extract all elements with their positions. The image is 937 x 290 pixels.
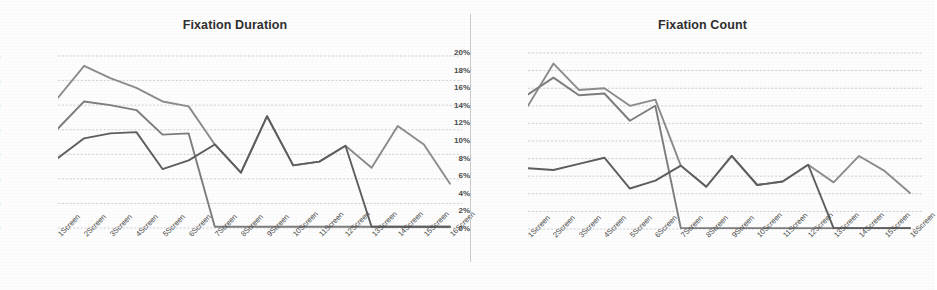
chart-panel-fixation-count: Fixation Count 0%2%4%6%8%10%12%14%16%18%…: [470, 0, 935, 290]
data-series-line: [58, 66, 450, 184]
chart-panel-fixation-duration: Fixation Duration 0%2%4%6%8%10%12%14% 1S…: [0, 0, 470, 290]
x-axis-labels-fixation-count: 1Screen2Screen3Screen4Screen5Screen6Scre…: [528, 233, 930, 290]
y-tick-label: 18%: [416, 65, 470, 74]
data-series-line: [58, 101, 450, 226]
y-tick-label: 16%: [416, 83, 470, 92]
y-tick-label: 12%: [416, 118, 470, 127]
y-tick-label: 20%: [416, 48, 470, 57]
plot-area-fixation-count: [528, 52, 924, 230]
y-tick-label: 10%: [416, 136, 470, 145]
chart-title-fixation-count: Fixation Count: [470, 18, 935, 32]
x-axis-labels-fixation-duration: 1Screen2Screen3Screen4Screen5Screen6Scre…: [58, 232, 470, 290]
y-tick-label: 6%: [416, 171, 470, 180]
data-series-line: [528, 78, 910, 228]
y-tick-label: 0%: [416, 224, 470, 233]
chart-title-fixation-duration: Fixation Duration: [0, 18, 470, 32]
y-tick-label: 4%: [416, 188, 470, 197]
y-tick-label: 8%: [416, 153, 470, 162]
data-series-line: [528, 64, 910, 193]
plot-area-fixation-duration: [58, 55, 464, 229]
y-tick-label: 14%: [416, 100, 470, 109]
y-tick-label: 2%: [416, 206, 470, 215]
